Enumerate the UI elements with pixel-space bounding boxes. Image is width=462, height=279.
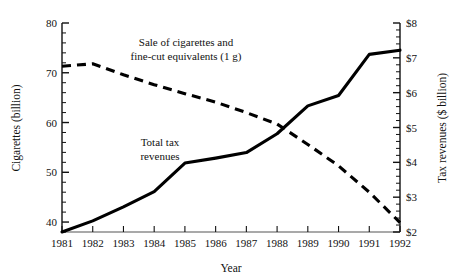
x-tick-label: 1987 (235, 237, 258, 249)
left-tick-label: 60 (46, 117, 58, 129)
x-tick-label: 1984 (143, 237, 166, 249)
tax-revenues-label: Total taxrevenues (140, 136, 179, 162)
annotations-layer: Sale of cigarettes andfine-cut equivalen… (131, 36, 242, 162)
left-tick-label: 40 (46, 216, 58, 228)
right-tick-label: $8 (406, 17, 418, 29)
x-tick-label: 1981 (51, 237, 73, 249)
left-tick-label: 70 (46, 67, 58, 79)
x-tick-label: 1988 (266, 237, 289, 249)
x-tick-label: 1982 (82, 237, 104, 249)
left-tick-label: 50 (46, 166, 58, 178)
left-tick-label: 80 (46, 17, 58, 29)
left-axis-tick-labels: 4050607080 (46, 17, 58, 228)
cigarette-sales-label: Sale of cigarettes andfine-cut equivalen… (131, 36, 242, 63)
x-tick-label: 1992 (389, 237, 411, 249)
dual-axis-line-chart: 4050607080 $2$3$4$5$6$7$8 19811982198319… (0, 0, 462, 279)
y-axis-title-right: Tax revenues ($ billion) (436, 73, 449, 183)
x-tick-label: 1983 (112, 237, 135, 249)
chart-container: 4050607080 $2$3$4$5$6$7$8 19811982198319… (0, 0, 462, 279)
x-axis-tick-labels: 1981198219831984198519861987198819891990… (51, 237, 411, 249)
x-tick-label: 1985 (174, 237, 197, 249)
y-axis-title-left: Cigarettes (billion) (10, 84, 23, 171)
right-tick-label: $3 (406, 191, 418, 203)
x-axis-title: Year (220, 262, 241, 274)
series-line-cigarette-sales (62, 64, 400, 223)
right-tick-label: $7 (406, 52, 418, 64)
left-axis-ticks (62, 23, 69, 232)
x-tick-label: 1989 (297, 237, 320, 249)
x-tick-label: 1986 (205, 237, 228, 249)
x-tick-label: 1991 (358, 237, 380, 249)
series-layer (62, 50, 400, 232)
right-tick-label: $4 (406, 156, 418, 168)
right-axis-ticks (393, 23, 400, 232)
x-tick-label: 1990 (328, 237, 351, 249)
right-axis-tick-labels: $2$3$4$5$6$7$8 (406, 17, 418, 238)
right-tick-label: $5 (406, 122, 418, 134)
series-line-tax-revenues (62, 50, 400, 232)
right-tick-label: $6 (406, 87, 418, 99)
x-axis-ticks (62, 226, 400, 232)
